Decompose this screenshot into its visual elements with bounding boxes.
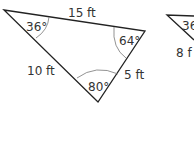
side-label-top: 15 ft	[68, 6, 96, 20]
angle-label-bottom: 80°	[88, 80, 109, 94]
triangle-diagram: 36° 64° 80° 15 ft 10 ft 5 ft 36 8 f	[0, 0, 194, 141]
angle-label-triangle-2: 36	[182, 19, 194, 33]
side-label-triangle-2: 8 f	[176, 46, 192, 60]
side-label-left: 10 ft	[27, 64, 55, 78]
angle-arc-bottom	[77, 70, 118, 78]
angle-label-top-left: 36°	[26, 20, 47, 34]
side-label-right: 5 ft	[124, 68, 144, 82]
angle-label-top-right: 64°	[119, 34, 140, 48]
